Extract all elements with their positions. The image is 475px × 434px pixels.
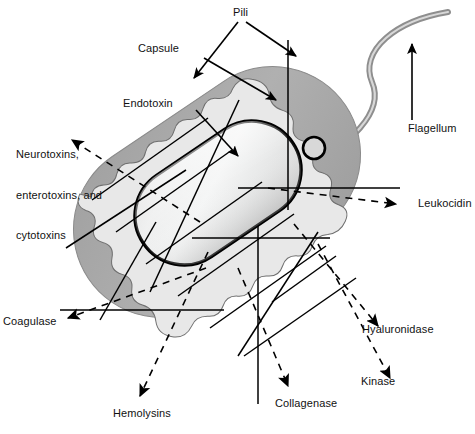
label-kinase: Kinase <box>361 375 395 389</box>
label-coagulase: Coagulase <box>3 315 57 329</box>
label-flagellum: Flagellum <box>408 122 457 136</box>
label-neurotoxins: Neurotoxins, enterotoxins, and cytotoxin… <box>16 121 102 256</box>
label-hemolysins: Hemolysins <box>113 407 171 421</box>
label-collagenase: Collagenase <box>275 397 337 411</box>
label-neurotoxins-line1: Neurotoxins, <box>16 148 102 162</box>
label-neurotoxins-line2: enterotoxins, and <box>16 189 102 203</box>
flagellum-basal-body <box>303 137 325 159</box>
label-neurotoxins-line3: cytotoxins <box>16 229 102 243</box>
label-pili: Pili <box>233 6 248 20</box>
label-capsule: Capsule <box>138 42 179 56</box>
label-leukocidin: Leukocidin <box>418 197 472 211</box>
label-endotoxin: Endotoxin <box>123 97 173 111</box>
label-hyaluronidase: Hyaluronidase <box>362 323 434 337</box>
